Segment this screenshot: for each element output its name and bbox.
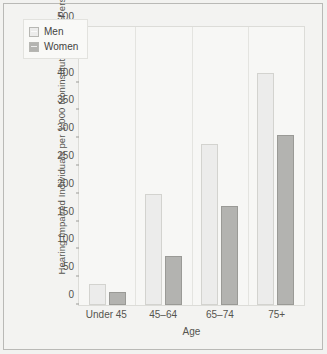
chart-screenshot: Hearing Impaired Individuals per 1,000 N…: [0, 0, 327, 354]
y-tick-label: 400: [57, 66, 74, 77]
y-tick-label: 150: [57, 205, 74, 216]
group-separator: [192, 27, 193, 305]
chart-legend: MenWomen: [23, 19, 88, 59]
women-swatch-icon: [29, 42, 39, 52]
bar-women-2: [221, 206, 238, 305]
x-tick-label: 65–74: [192, 309, 249, 320]
legend-item: Men: [29, 24, 78, 39]
legend-label: Men: [44, 26, 63, 37]
bar-groups: [79, 27, 304, 305]
group-separator: [135, 27, 136, 305]
bar-group: [135, 27, 191, 305]
legend-label: Women: [44, 41, 78, 52]
plot-area: 050100150200250300350400450500: [78, 26, 305, 306]
bar-group: [79, 27, 135, 305]
figure-frame: Hearing Impaired Individuals per 1,000 N…: [3, 3, 323, 350]
bar-men-0: [89, 284, 106, 305]
plot-inner: 050100150200250300350400450500: [79, 27, 304, 305]
y-tick-label: 350: [57, 94, 74, 105]
bar-women-1: [165, 256, 182, 305]
men-swatch-icon: [29, 27, 39, 37]
x-tick-label: 45–64: [135, 309, 192, 320]
bar-group: [248, 27, 304, 305]
bar-men-2: [201, 144, 218, 305]
bar-men-3: [257, 73, 274, 305]
y-tick-label: 0: [68, 289, 74, 300]
y-tick-label: 250: [57, 150, 74, 161]
x-axis-title: Age: [78, 326, 305, 337]
x-axis-tick-labels: Under 4545–6465–7475+: [78, 309, 305, 320]
y-tick-label: 300: [57, 122, 74, 133]
x-tick-label: 75+: [248, 309, 305, 320]
y-tick-label: 50: [63, 261, 74, 272]
group-separator: [248, 27, 249, 305]
bar-group: [192, 27, 248, 305]
legend-item: Women: [29, 39, 78, 54]
bar-men-1: [145, 194, 162, 305]
bar-women-3: [277, 135, 294, 305]
bar-women-0: [109, 292, 126, 305]
y-tick-label: 100: [57, 233, 74, 244]
y-tick-label: 200: [57, 177, 74, 188]
x-tick-label: Under 45: [78, 309, 135, 320]
